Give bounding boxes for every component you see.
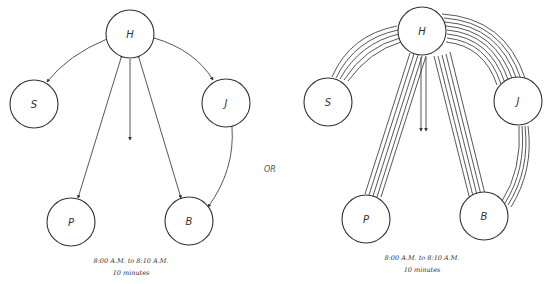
diagram-stage: H S J P B bbox=[0, 0, 552, 284]
node-j: J bbox=[202, 79, 250, 127]
edge-bundle-h-b bbox=[434, 52, 485, 196]
edge-bundle-j-b bbox=[502, 126, 529, 207]
node-h: H bbox=[106, 10, 154, 58]
node-s: S bbox=[10, 80, 58, 128]
left-diagram: H S J P B bbox=[10, 10, 250, 246]
node-h: H bbox=[398, 7, 446, 55]
left-caption-duration: 10 minutes bbox=[71, 267, 191, 279]
node-label: S bbox=[31, 99, 38, 110]
node-label: P bbox=[363, 214, 370, 225]
edge-h-b bbox=[139, 58, 181, 198]
node-b: B bbox=[165, 197, 213, 245]
left-caption-time: 8:00 A.M. to 8:10 A.M. bbox=[71, 255, 191, 267]
node-s: S bbox=[304, 78, 352, 126]
left-edges bbox=[47, 38, 232, 207]
right-caption-time: 8:00 A.M. to 8:10 A.M. bbox=[362, 252, 482, 264]
right-caption: 8:00 A.M. to 8:10 A.M. 10 minutes bbox=[362, 252, 482, 276]
or-separator: OR bbox=[264, 165, 276, 174]
node-p: P bbox=[47, 198, 95, 246]
node-label: B bbox=[481, 211, 488, 222]
node-p: P bbox=[342, 195, 390, 243]
node-label: H bbox=[418, 26, 426, 37]
edge-h-p bbox=[78, 58, 121, 198]
node-label: S bbox=[325, 97, 332, 108]
right-diagram: H S J P B bbox=[304, 7, 542, 243]
node-j: J bbox=[494, 77, 542, 125]
edge-bundle-h-j bbox=[442, 14, 525, 85]
edge-bundle-h-s bbox=[332, 26, 401, 81]
right-caption-duration: 10 minutes bbox=[362, 264, 482, 276]
node-label: H bbox=[126, 29, 134, 40]
edge-h-j bbox=[154, 38, 213, 80]
edge-bundle-h-p bbox=[365, 53, 426, 197]
node-b: B bbox=[460, 192, 508, 240]
edge-h-s bbox=[47, 39, 107, 82]
node-label: P bbox=[68, 217, 75, 228]
edge-j-b bbox=[208, 127, 232, 207]
node-label: B bbox=[186, 216, 193, 227]
left-caption: 8:00 A.M. to 8:10 A.M. 10 minutes bbox=[71, 255, 191, 279]
